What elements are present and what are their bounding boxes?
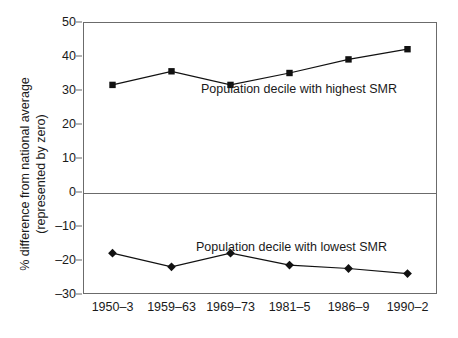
y-axis-tick-mark (76, 56, 82, 57)
y-axis-tick-mark (76, 158, 82, 159)
y-axis-tick-mark (76, 22, 82, 23)
x-axis-tick-label: 1969–73 (206, 300, 255, 314)
y-axis-tick-label: –30 (55, 287, 76, 301)
y-axis-tick-label: 40 (62, 49, 76, 63)
y-axis-tick-label: 20 (62, 117, 76, 131)
y-axis-tick-label: –20 (55, 253, 76, 267)
y-axis-title-line-1: % difference from national average (17, 54, 33, 294)
y-axis-tick-label: 10 (62, 151, 76, 165)
x-axis-tick-label: 1981–5 (269, 300, 311, 314)
chart-figure: 50403020100–10–20–30 % difference from n… (0, 0, 458, 338)
y-axis-tick-mark (76, 294, 82, 295)
x-axis-tick-label: 1990–2 (387, 300, 429, 314)
y-axis-title: % difference from national average (repr… (17, 54, 49, 294)
annotation-lowest-smr: Population decile with lowest SMR (196, 240, 387, 254)
y-axis-tick-label: 30 (62, 83, 76, 97)
y-axis-tick-mark (76, 90, 82, 91)
y-axis-tick-label: –10 (55, 219, 76, 233)
y-axis-tick-mark (76, 124, 82, 125)
annotation-highest-smr: Population decile with highest SMR (201, 82, 397, 96)
y-axis-tick-mark (76, 226, 82, 227)
x-axis-tick-label: 1986–9 (328, 300, 370, 314)
y-axis-tick-mark (76, 260, 82, 261)
zero-reference-line (84, 193, 436, 194)
y-axis-title-line-2: (represented by zero) (33, 54, 49, 294)
y-axis-tick-label: 0 (69, 185, 76, 199)
y-axis-tick-mark (76, 192, 82, 193)
x-axis-tick-label: 1950–3 (92, 300, 134, 314)
y-axis-tick-label: 50 (62, 15, 76, 29)
x-axis-tick-label: 1959–63 (147, 300, 196, 314)
